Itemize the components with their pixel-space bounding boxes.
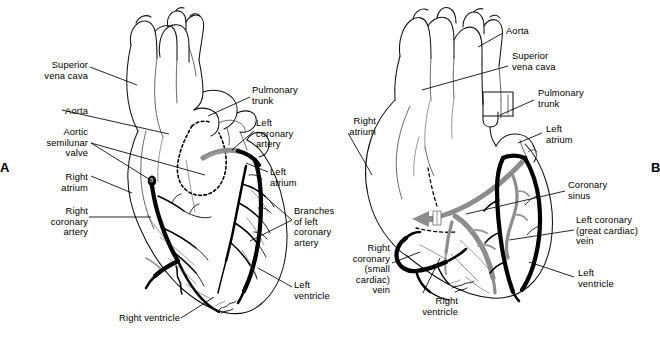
- label-coronary-sinus-b: Coronary sinus: [568, 180, 648, 201]
- label-right-ventricle-a: Right ventricle: [90, 313, 180, 324]
- panel-b-heart-outline: [366, 98, 553, 298]
- panel-b-coronary-sinus: [412, 160, 524, 232]
- label-right-coronary-artery-a: Right coronary artery: [2, 206, 88, 238]
- panel-letter-a: A: [0, 161, 9, 174]
- panel-a-great-vessels: [127, 8, 204, 137]
- label-superior-vena-cava-b: Superior vena cava: [512, 51, 592, 72]
- label-superior-vena-cava-a: Superior vena cava: [10, 60, 88, 81]
- label-left-atrium-b: Left atrium: [546, 124, 612, 145]
- label-right-ventricle-b: Right ventricle: [398, 296, 458, 317]
- label-right-atrium-a: Right atrium: [10, 172, 88, 193]
- panel-b-pulmonary-trunk: [483, 92, 513, 146]
- panel-b-small-cardiac-vein: [396, 232, 466, 300]
- label-aorta-b: Aorta: [506, 26, 578, 37]
- label-left-atrium-a: Left atrium: [270, 167, 336, 188]
- label-left-ventricle-b: Left ventricle: [578, 268, 648, 289]
- panel-a-illustration: [62, 8, 292, 318]
- panel-a-aortic-valve: [148, 121, 226, 195]
- label-right-atrium-b: Right atrium: [316, 116, 376, 137]
- label-pulmonary-trunk-a: Pulmonary trunk: [252, 85, 332, 106]
- label-right-coronary-small-cardiac-vein-b: Right coronary (small cardiac) vein: [334, 243, 390, 296]
- panel-b-great-vessels: [395, 8, 503, 104]
- label-aortic-semilunar-valve-a: Aortic semilunar valve: [6, 127, 88, 159]
- label-aorta-a: Aorta: [10, 106, 88, 117]
- label-pulmonary-trunk-b: Pulmonary trunk: [538, 88, 618, 109]
- panel-a-left-coronary-artery: [203, 150, 259, 165]
- panel-letter-b: B: [651, 161, 660, 174]
- panel-a-right-coronary-artery: [146, 186, 219, 312]
- panel-a-left-coronary-branches: [218, 160, 274, 303]
- label-left-coronary-great-cardiac-vein-b: Left coronary (great cardiac) vein: [576, 215, 660, 247]
